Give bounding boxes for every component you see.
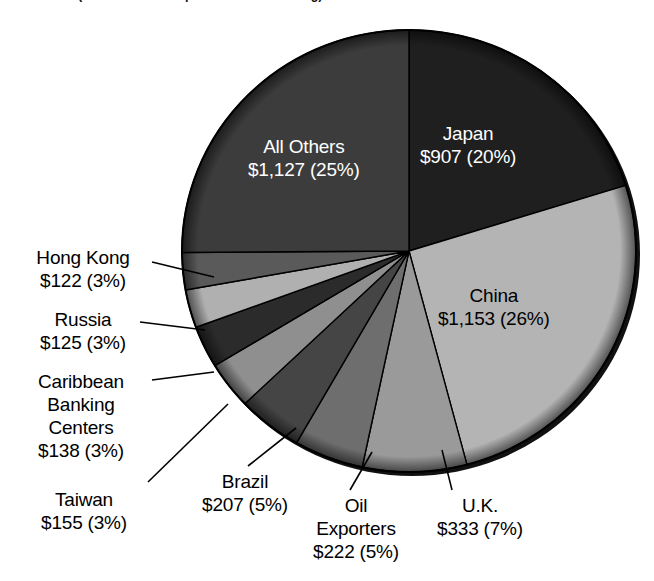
slice-label-hong-kong: Hong Kong $122 (3%) [8,246,158,292]
slice-label-uk-value: $333 (7%) [420,517,540,540]
slice-label-uk: U.K. $333 (7%) [420,494,540,540]
slice-label-uk-name: U.K. [462,495,498,516]
slice-label-all-others-value: $1,127 (25%) [248,158,360,181]
slice-label-brazil-name: Brazil [222,471,268,492]
pie-slices [182,30,636,472]
slice-label-russia-value: $125 (3%) [8,331,158,354]
slice-label-oil-value: $222 (5%) [300,540,412,563]
slice-label-hong-kong-name: Hong Kong [36,247,129,268]
slice-label-hong-kong-value: $122 (3%) [8,269,158,292]
slice-label-russia-name: Russia [55,309,112,330]
slice-label-caribbean-line3: Centers [4,416,158,439]
slice-label-taiwan-value: $155 (3%) [14,511,154,534]
leader-line-brazil [248,428,296,466]
slice-label-oil-line2: Exporters [300,517,412,540]
slice-label-russia: Russia $125 (3%) [8,308,158,354]
slice-label-brazil-value: $207 (5%) [190,493,300,516]
slice-label-taiwan-name: Taiwan [55,489,113,510]
slice-label-china-name: China [470,285,519,306]
slice-label-all-others: All Others $1,127 (25%) [248,135,360,181]
slice-label-caribbean-banking-centers: Caribbean Banking Centers $138 (3%) [4,370,158,462]
slice-label-brazil: Brazil $207 (5%) [190,470,300,516]
leader-line-caribbean [152,372,214,380]
slice-label-china: China $1,153 (26%) [438,284,550,330]
slice-label-caribbean-value: $138 (3%) [4,439,158,462]
slice-label-oil-exporters: Oil Exporters $222 (5%) [300,494,412,563]
slice-label-china-value: $1,153 (26%) [438,307,550,330]
slice-label-caribbean-line2: Banking [4,393,158,416]
slice-label-oil-line1: Oil [345,495,368,516]
slice-label-japan-value: $907 (20%) [420,145,516,168]
slice-label-japan: Japan $907 (20%) [420,122,516,168]
slice-label-taiwan: Taiwan $155 (3%) [14,488,154,534]
slice-label-caribbean-line1: Caribbean [38,371,124,392]
slice-label-japan-name: Japan [443,123,494,144]
slice-label-all-others-name: All Others [263,136,344,157]
